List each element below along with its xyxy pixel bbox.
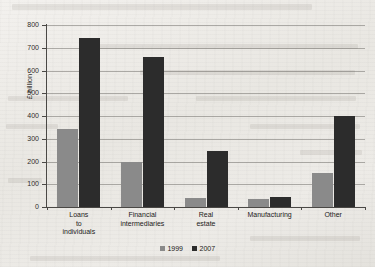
y-axis-tick — [42, 139, 46, 140]
x-axis-label-line: individuals — [62, 228, 95, 235]
y-axis-tick — [42, 162, 46, 163]
legend-item-1999: 1999 — [160, 245, 183, 252]
x-axis-tick — [301, 207, 302, 210]
y-axis-tick — [42, 116, 46, 117]
x-axis-label-line: Loans — [69, 211, 88, 218]
x-axis-tick — [47, 207, 48, 210]
x-axis-tick — [111, 207, 112, 210]
legend-label: 1999 — [167, 245, 183, 252]
x-axis-category-label: Manufacturing — [238, 211, 302, 220]
y-axis-tick-label: 800 — [13, 21, 39, 28]
bar-1999-manufacturing — [248, 199, 269, 207]
x-axis-line — [46, 207, 365, 208]
bar-2007-manufacturing — [270, 197, 291, 207]
legend-label: 2007 — [200, 245, 216, 252]
x-axis-label-line: Manufacturing — [247, 211, 291, 218]
plot-area — [47, 25, 365, 207]
y-axis-tick — [42, 93, 46, 94]
legend-swatch — [160, 246, 165, 251]
x-axis-label-line: Real — [199, 211, 213, 218]
x-axis-label-line: to — [76, 220, 82, 227]
x-axis-label-line: estate — [196, 220, 215, 227]
chart-legend: 19992007 — [0, 245, 375, 252]
bar-1999-other — [312, 173, 333, 207]
y-axis-tick — [42, 184, 46, 185]
x-axis-label-line: intermediaries — [120, 220, 164, 227]
bar-2007-other — [334, 116, 355, 207]
y-axis-tick-label: 200 — [13, 158, 39, 165]
legend-item-2007: 2007 — [192, 245, 215, 252]
bar-chart: 0100200300400500600700800 £ billion Loan… — [0, 0, 375, 267]
bar-1999-loans-to-individuals — [57, 129, 78, 207]
y-axis-tick — [42, 71, 46, 72]
x-axis-category-label: Other — [301, 211, 365, 220]
x-axis-label-line: Financial — [128, 211, 156, 218]
y-axis-title: £ billion — [25, 52, 34, 122]
y-axis-tick-label: 100 — [13, 180, 39, 187]
x-axis-tick — [174, 207, 175, 210]
bar-1999-real-estate — [185, 198, 206, 207]
bar-2007-loans-to-individuals — [79, 38, 100, 207]
bar-2007-financial-intermediaries — [143, 57, 164, 207]
y-axis-tick — [42, 48, 46, 49]
x-axis-category-label: Loanstoindividuals — [47, 211, 111, 237]
bar-2007-real-estate — [207, 151, 228, 207]
x-axis-label-line: Other — [324, 211, 342, 218]
x-axis-tick — [238, 207, 239, 210]
legend-swatch — [192, 246, 197, 251]
gridline — [47, 25, 365, 26]
y-axis-tick — [42, 25, 46, 26]
x-axis-category-label: Realestate — [174, 211, 238, 228]
y-axis-tick-label: 0 — [13, 203, 39, 210]
y-axis-tick-label: 700 — [13, 44, 39, 51]
x-axis-tick — [365, 207, 366, 210]
bar-1999-financial-intermediaries — [121, 162, 142, 208]
x-axis-category-label: Financialintermediaries — [111, 211, 175, 228]
y-axis-tick-label: 300 — [13, 135, 39, 142]
